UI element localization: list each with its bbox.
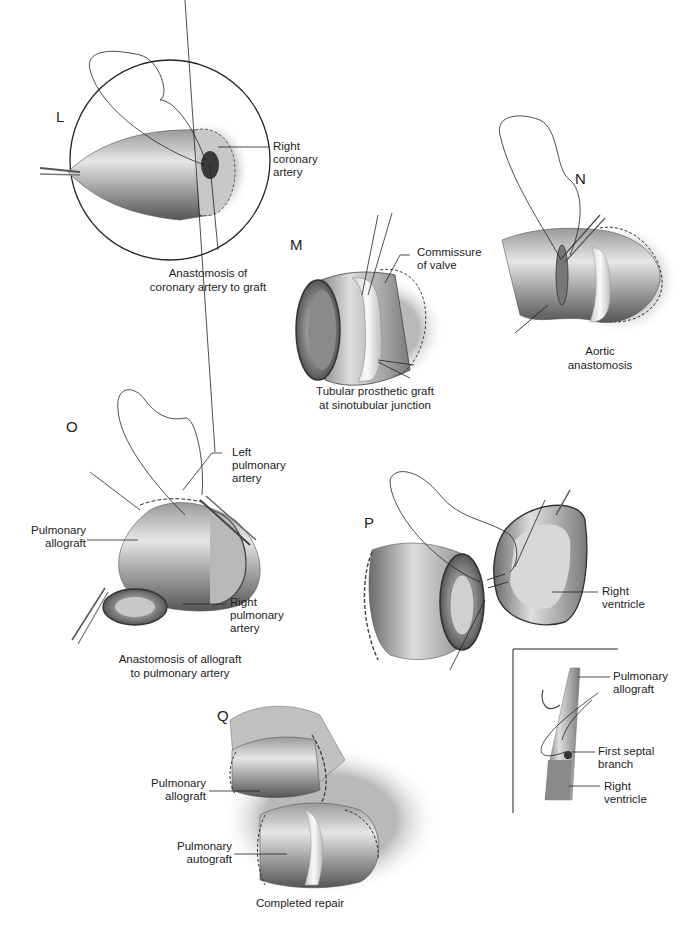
panel-letter-l: L — [56, 108, 64, 125]
label-line: ventricle — [602, 598, 645, 611]
caption-n: Aortic anastomosis — [540, 344, 660, 372]
panel-n-illustration — [499, 116, 678, 335]
label-line: allograft — [136, 790, 206, 803]
label-line: Pulmonary — [613, 670, 668, 683]
label-line: Right — [604, 780, 647, 793]
inset-label-pulmonary-allograft: Pulmonary allograft — [613, 670, 668, 696]
panel-letter-n: N — [575, 170, 586, 187]
label-commissure-of-valve: Commissure of valve — [417, 246, 482, 272]
label-line: Right — [602, 585, 645, 598]
label-right-ventricle-p: Right ventricle — [602, 585, 645, 611]
caption-q: Completed repair — [240, 896, 360, 910]
label-left-pulmonary-artery: Left pulmonary artery — [232, 446, 286, 485]
caption-l: Anastomosis of coronary artery to graft — [118, 266, 298, 294]
illustration-canvas — [0, 0, 696, 949]
label-line: Pulmonary — [162, 840, 232, 853]
caption-line: Anastomosis of — [118, 266, 298, 280]
inset-label-first-septal-branch: First septal branch — [598, 745, 654, 771]
caption-line: to pulmonary artery — [90, 666, 270, 680]
label-line: artery — [232, 472, 286, 485]
label-line: artery — [273, 166, 318, 179]
label-line: allograft — [10, 537, 86, 550]
label-line: Left — [232, 446, 286, 459]
caption-line: Tubular prosthetic graft — [295, 384, 455, 398]
panel-p-illustration — [364, 472, 598, 670]
panel-l-illustration — [40, 51, 270, 260]
label-line: Right — [273, 140, 318, 153]
caption-m: Tubular prosthetic graft at sinotubular … — [295, 384, 455, 412]
caption-line: anastomosis — [540, 358, 660, 372]
panel-q-illustration — [209, 706, 440, 895]
label-line: coronary — [273, 153, 318, 166]
label-line: ventricle — [604, 793, 647, 806]
label-line: pulmonary — [230, 609, 284, 622]
caption-line: at sinotubular junction — [295, 398, 455, 412]
panel-m-illustration — [296, 213, 445, 385]
panel-letter-q: Q — [217, 707, 229, 724]
label-line: Pulmonary — [136, 777, 206, 790]
panel-letter-m: M — [290, 236, 303, 253]
panel-o-illustration — [72, 0, 260, 644]
label-pulmonary-autograft-q: Pulmonary autograft — [162, 840, 232, 866]
caption-line: Aortic — [540, 344, 660, 358]
panel-letter-p: P — [364, 514, 374, 531]
caption-line: coronary artery to graft — [118, 280, 298, 294]
label-line: Pulmonary — [10, 524, 86, 537]
label-line: Right — [230, 596, 284, 609]
panel-p-inset — [513, 649, 618, 813]
label-pulmonary-allograft-q: Pulmonary allograft — [136, 777, 206, 803]
label-line: pulmonary — [232, 459, 286, 472]
label-right-pulmonary-artery: Right pulmonary artery — [230, 596, 284, 635]
label-line: allograft — [613, 683, 668, 696]
label-line: artery — [230, 622, 284, 635]
inset-label-right-ventricle: Right ventricle — [604, 780, 647, 806]
label-line: First septal — [598, 745, 654, 758]
label-line: branch — [598, 758, 654, 771]
caption-line: Anastomosis of allograft — [90, 652, 270, 666]
caption-o: Anastomosis of allograft to pulmonary ar… — [90, 652, 270, 680]
label-right-coronary-artery: Right coronary artery — [273, 140, 318, 179]
label-line: of valve — [417, 259, 482, 272]
panel-letter-o: O — [66, 418, 78, 435]
label-pulmonary-allograft-o: Pulmonary allograft — [10, 524, 86, 550]
label-line: autograft — [162, 853, 232, 866]
caption-line: Completed repair — [240, 896, 360, 910]
label-line: Commissure — [417, 246, 482, 259]
